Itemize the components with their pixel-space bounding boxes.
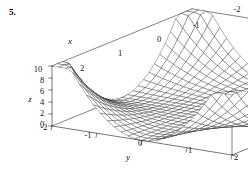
wireframe-mesh-surface xyxy=(52,9,248,141)
surface-plot-figure: 5. -2-1012-2-10120246810 xyz xyxy=(0,0,248,170)
x-tick-label: 1 xyxy=(118,48,122,58)
surface-plot-canvas: -2-1012-2-10120246810 xyz xyxy=(0,0,248,170)
y-tick-label: 0 xyxy=(138,138,142,148)
z-tick-label: 10 xyxy=(34,64,43,74)
y-tick-label: 1 xyxy=(188,145,192,155)
x-axis-name: x xyxy=(67,36,72,46)
z-tick-label: 8 xyxy=(40,75,44,85)
x-tick-label: -2 xyxy=(233,4,240,14)
x-tick-label: -1 xyxy=(192,20,199,30)
y-axis-name: y xyxy=(125,152,130,162)
y-tick-label: 2 xyxy=(234,152,238,162)
x-tick-label: 0 xyxy=(157,34,161,44)
z-axis-name: z xyxy=(27,94,32,104)
z-tick-label: 0 xyxy=(40,119,44,129)
y-tick-label: -1 xyxy=(84,130,91,140)
z-tick-label: 4 xyxy=(40,97,45,107)
z-tick-label: 2 xyxy=(40,108,44,118)
x-tick-label: 2 xyxy=(80,63,84,73)
z-tick-label: 6 xyxy=(40,86,44,96)
